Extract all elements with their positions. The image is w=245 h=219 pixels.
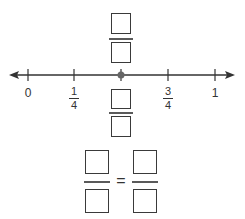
equation-left-fraction-bar	[84, 181, 110, 183]
numerator: 3	[165, 85, 171, 97]
numerator: 1	[71, 85, 77, 97]
tick-label-1-4: 1 4	[67, 86, 81, 111]
equation-right-denominator-box[interactable]	[133, 189, 157, 213]
middle-numerator-box[interactable]	[111, 89, 131, 109]
equals-sign: =	[114, 173, 128, 189]
denominator: 4	[165, 99, 171, 111]
equation-left-numerator-box[interactable]	[85, 150, 109, 174]
denominator: 4	[71, 99, 77, 111]
tick-label-0: 0	[23, 87, 33, 99]
top-numerator-box[interactable]	[111, 13, 131, 34]
top-fraction-bar	[109, 38, 133, 40]
top-denominator-box[interactable]	[111, 42, 131, 63]
tick-label-1: 1	[210, 87, 220, 99]
equation-left-denominator-box[interactable]	[85, 189, 109, 213]
equation-right-fraction-bar	[132, 181, 158, 183]
middle-fraction-bar	[109, 112, 133, 114]
tick-label-3-4: 3 4	[161, 86, 175, 111]
equation-right-numerator-box[interactable]	[133, 150, 157, 174]
middle-denominator-box[interactable]	[111, 116, 131, 137]
point-marker	[118, 72, 125, 79]
